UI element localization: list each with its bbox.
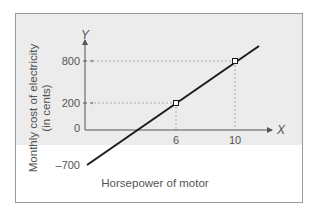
y-tick-label-0: 0 xyxy=(74,122,80,134)
y-axis-title-line2: (in cents) xyxy=(40,84,52,131)
guide-lines xyxy=(90,61,235,130)
x-axis-letter: X xyxy=(276,123,286,137)
y-axis-title-line1: Monthly cost of electricity xyxy=(27,44,39,173)
x-axis-title: Horsepower of motor xyxy=(101,177,209,189)
x-tick-label-6: 6 xyxy=(173,134,179,146)
chart-svg: Y X 800 200 0 –700 6 10 Horsepower of mo… xyxy=(0,0,318,216)
y-tick-label-neg700: –700 xyxy=(56,159,80,171)
y-tick-label-800: 800 xyxy=(62,55,80,67)
point-6-200 xyxy=(174,101,179,106)
point-10-800 xyxy=(233,59,238,64)
y-axis-letter: Y xyxy=(81,28,90,42)
y-tick-label-200: 200 xyxy=(62,97,80,109)
x-tick-label-10: 10 xyxy=(229,134,241,146)
